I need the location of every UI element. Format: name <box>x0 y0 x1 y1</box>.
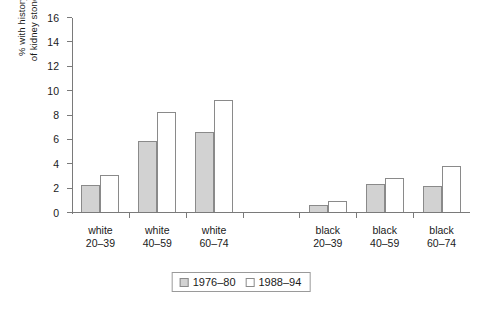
bar-group <box>356 178 413 212</box>
y-axis-tick-label: 12 <box>47 60 59 72</box>
bar <box>423 186 442 212</box>
bar <box>81 185 100 212</box>
y-axis-tick-label: 4 <box>53 158 59 170</box>
y-axis-tick: 16 <box>67 17 72 18</box>
x-axis-tick <box>299 213 300 218</box>
x-axis-label-line: 60–74 <box>186 237 243 250</box>
bar-group <box>186 100 243 212</box>
kidney-stones-bar-chart: % with history of kidney stones 02468101… <box>0 0 482 311</box>
x-axis-label-line: white <box>72 224 129 237</box>
y-axis-tick: 12 <box>67 66 72 67</box>
x-axis-tick <box>413 213 414 218</box>
x-axis-label-line: 20–39 <box>299 237 356 250</box>
legend-item: 1988–94 <box>246 276 302 288</box>
x-axis-label-line: white <box>129 224 186 237</box>
y-axis-tick: 6 <box>67 139 72 140</box>
bar <box>195 132 214 212</box>
y-axis-tick-label: 6 <box>53 133 59 145</box>
y-axis-tick-label: 16 <box>47 12 59 24</box>
bar <box>328 201 347 212</box>
y-axis-tick-label: 0 <box>53 207 59 219</box>
bar <box>138 141 157 212</box>
y-axis-title-line-2: of kidney stones <box>28 0 41 61</box>
legend-swatch-icon <box>246 278 255 287</box>
plot-area: 0246810121416 <box>72 18 470 213</box>
bar <box>442 166 461 212</box>
x-axis-tick <box>243 213 244 218</box>
y-axis-title: % with history of kidney stones <box>8 0 48 96</box>
y-axis-tick: 14 <box>67 41 72 42</box>
legend-label: 1988–94 <box>259 276 302 288</box>
y-axis-tick-label: 8 <box>53 109 59 121</box>
legend-label: 1976–80 <box>193 276 236 288</box>
x-axis-label-line: black <box>299 224 356 237</box>
x-axis-label-line: white <box>186 224 243 237</box>
y-axis-tick: 4 <box>67 163 72 164</box>
x-axis-label-line: 20–39 <box>72 237 129 250</box>
x-axis-label-line: 40–59 <box>129 237 186 250</box>
x-axis-tick <box>186 213 187 218</box>
y-axis-title-line-1: % with history <box>16 0 29 56</box>
bar-group <box>299 201 356 212</box>
chart-legend: 1976–80 1988–94 <box>172 272 311 292</box>
x-axis-label-line: black <box>356 224 413 237</box>
y-axis-tick-label: 10 <box>47 85 59 97</box>
x-axis-label: white40–59 <box>129 224 186 250</box>
x-axis-label-line: 60–74 <box>413 237 470 250</box>
y-axis-tick-label: 2 <box>53 182 59 194</box>
x-axis-label-line: 40–59 <box>356 237 413 250</box>
x-axis-tick <box>129 213 130 218</box>
bar-group <box>413 166 470 212</box>
x-axis-label-line: black <box>413 224 470 237</box>
bar <box>214 100 233 212</box>
bar <box>385 178 404 212</box>
y-axis-tick: 0 <box>67 212 72 213</box>
bar <box>100 175 119 212</box>
x-axis-label: black20–39 <box>299 224 356 250</box>
x-axis-label: white20–39 <box>72 224 129 250</box>
bar <box>366 184 385 212</box>
bar-group <box>129 112 186 212</box>
y-axis-tick-label: 14 <box>47 36 59 48</box>
bar <box>157 112 176 212</box>
x-axis-label: black40–59 <box>356 224 413 250</box>
x-axis-tick <box>356 213 357 218</box>
x-axis-label: black60–74 <box>413 224 470 250</box>
y-axis-tick: 10 <box>67 90 72 91</box>
x-axis-label: white60–74 <box>186 224 243 250</box>
bar <box>309 205 328 212</box>
y-axis-tick: 8 <box>67 115 72 116</box>
legend-swatch-icon <box>180 278 189 287</box>
bar-group <box>72 175 129 212</box>
legend-item: 1976–80 <box>180 276 236 288</box>
x-axis-line <box>72 212 470 213</box>
